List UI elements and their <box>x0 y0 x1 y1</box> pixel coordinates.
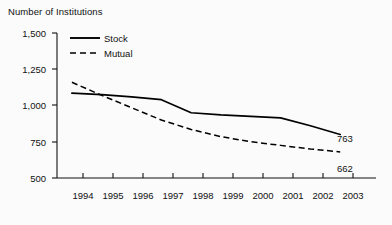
series-line-mutual <box>72 82 340 152</box>
plot-area <box>0 0 392 225</box>
y-tick-marks <box>52 33 57 178</box>
x-tick-marks <box>83 173 353 178</box>
chart-container: Number of Institutions 1,500 1,250 1,000… <box>0 0 392 225</box>
